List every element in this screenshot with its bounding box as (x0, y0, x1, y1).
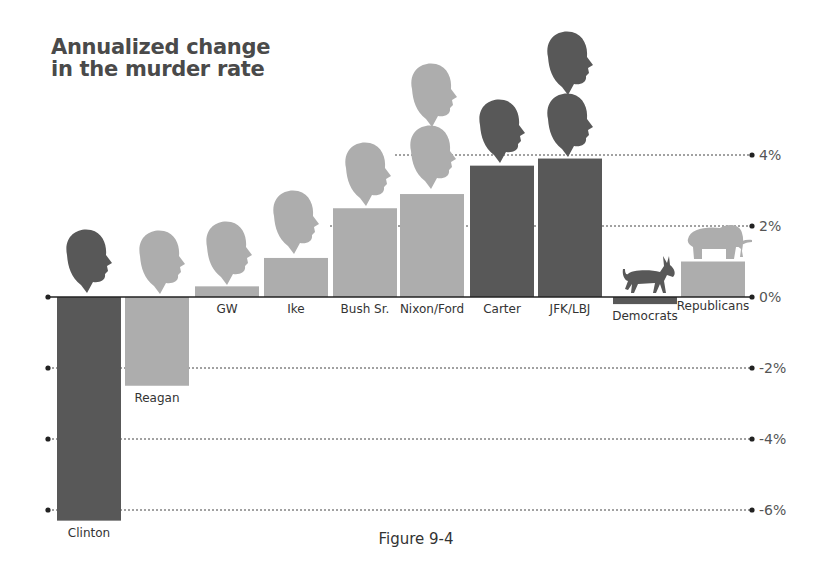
president-head-icon (66, 229, 112, 293)
axis-dot-right (749, 223, 754, 228)
bar-jfk-lbj (538, 159, 602, 297)
axis-dot-left (45, 436, 50, 441)
bar-bush-sr- (333, 208, 397, 297)
axis-dot-right (749, 294, 754, 299)
y-tick-label: 2% (759, 218, 781, 234)
president-head-icon (547, 93, 593, 157)
y-tick-label: 0% (759, 289, 781, 305)
y-tick-label: -6% (759, 502, 786, 518)
bar-clinton (57, 297, 121, 521)
president-head-icon (547, 31, 593, 95)
category-label: Democrats (612, 309, 678, 323)
axis-dot-right (749, 507, 754, 512)
category-label: GW (216, 302, 237, 316)
president-head-icon (139, 230, 185, 294)
bar-chart: 4%2%-2%-4%-6%0%ClintonReaganGWIkeBush Sr… (0, 0, 832, 573)
category-label: Ike (287, 302, 304, 316)
axis-dot-right (749, 152, 754, 157)
president-head-icon (345, 142, 391, 206)
category-label: Nixon/Ford (400, 302, 464, 316)
axis-dot-left (45, 365, 50, 370)
president-head-icon (410, 125, 456, 189)
elephant-icon (688, 225, 752, 259)
category-label: Reagan (134, 391, 179, 405)
bar-reagan (125, 297, 189, 386)
category-label: Republicans (677, 299, 750, 313)
axis-dot-left (45, 507, 50, 512)
president-head-icon (479, 99, 525, 163)
bar-democrats (613, 297, 677, 304)
bar-carter (470, 166, 534, 297)
axis-dot-left (45, 294, 50, 299)
bar-ike (264, 258, 328, 297)
y-tick-label: 4% (759, 147, 781, 163)
president-head-icon (411, 63, 457, 127)
bar-republicans (681, 262, 745, 298)
figure-caption: Figure 9-4 (0, 530, 832, 548)
bar-gw (195, 286, 259, 297)
category-label: JFK/LBJ (549, 302, 591, 316)
y-tick-label: -2% (759, 360, 786, 376)
president-head-icon (206, 221, 252, 285)
president-head-icon (273, 190, 319, 254)
category-label: Carter (483, 302, 521, 316)
donkey-icon (623, 256, 675, 293)
bar-nixon-ford (400, 194, 464, 297)
y-tick-label: -4% (759, 431, 786, 447)
category-label: Bush Sr. (341, 302, 390, 316)
axis-dot-right (749, 436, 754, 441)
axis-dot-right (749, 365, 754, 370)
